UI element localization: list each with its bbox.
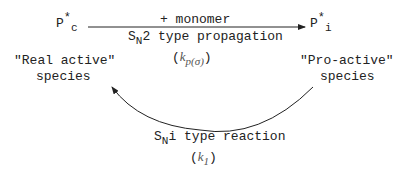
n-subscript: N (136, 35, 143, 47)
species-subscript: c (71, 22, 78, 34)
real-active-label: "Real active" (14, 54, 115, 67)
one-subscript: 1 (204, 155, 210, 167)
sn2-propagation-label: SN2 type propagation (128, 30, 283, 44)
star-superscript: * (318, 11, 325, 25)
s-letter: S (128, 29, 136, 44)
monomer-label: + monomer (160, 13, 230, 26)
star-superscript: * (64, 11, 71, 25)
species-base: P (56, 16, 64, 31)
rate-constant-kp: (kp(σ)) (172, 50, 212, 64)
species-pc: P*c (56, 17, 78, 31)
paren-open: ( (172, 50, 180, 65)
pro-active-species: species (320, 70, 375, 83)
k-symbol: k (180, 49, 186, 64)
n-subscript: N (162, 135, 169, 147)
paren-close: ) (204, 50, 212, 65)
species-pi: P*i (310, 17, 332, 31)
real-active-species: species (36, 70, 91, 83)
paren-close: ) (209, 150, 217, 165)
sni-reaction-label: SNi type reaction (154, 130, 285, 144)
p-sigma-subscript: p(σ) (186, 55, 204, 67)
pro-active-label: "Pro-active" (300, 54, 394, 67)
species-base: P (310, 16, 318, 31)
k-symbol: k (198, 149, 204, 164)
s-letter: S (154, 129, 162, 144)
paren-open: ( (190, 150, 198, 165)
rate-constant-k1: (k1) (190, 150, 217, 164)
propagation-text: 2 type propagation (142, 29, 282, 44)
sni-reaction-arrow (112, 87, 313, 132)
species-subscript: i (325, 22, 332, 34)
reaction-text: i type reaction (168, 129, 285, 144)
